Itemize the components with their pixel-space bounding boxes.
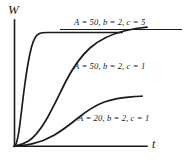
x-axis-label: t xyxy=(152,138,155,150)
curve-a50-b2-c5 xyxy=(16,33,123,146)
growth-curve-figure: W t A = 50, b = 2, c = 5 A = 50, b = 2, … xyxy=(0,0,186,167)
curve-label-a50-b2-c1: A = 50, b = 2, c = 1 xyxy=(74,62,145,71)
curve-label-a50-b2-c5: A = 50, b = 2, c = 5 xyxy=(74,18,145,27)
curve-label-a20-b2-c1: A = 20, b = 2, c = 1 xyxy=(78,114,149,123)
curve-a50-b2-c1 xyxy=(16,27,147,146)
y-axis-label: W xyxy=(8,3,19,16)
